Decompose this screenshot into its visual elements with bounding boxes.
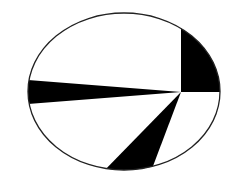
pie-chart — [0, 0, 234, 188]
